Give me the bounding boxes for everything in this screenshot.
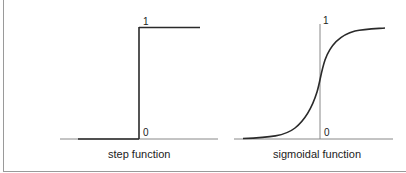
step-label-zero: 0 xyxy=(143,128,149,138)
sigmoid-function-graph xyxy=(234,24,393,139)
step-label-one: 1 xyxy=(143,17,149,27)
sigmoid-curve xyxy=(243,28,385,139)
sigmoid-label-one: 1 xyxy=(323,16,329,26)
sigmoid-label-zero: 0 xyxy=(324,128,330,138)
figure-frame: 1 0 step function 1 0 sigmoidal function xyxy=(0,0,406,173)
sigmoid-caption: sigmoidal function xyxy=(273,149,361,160)
step-caption: step function xyxy=(108,149,170,160)
step-function-graph xyxy=(60,27,218,139)
